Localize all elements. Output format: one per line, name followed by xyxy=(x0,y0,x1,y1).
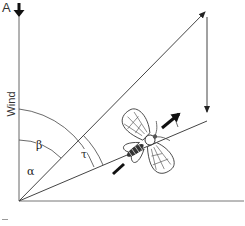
ground-vector xyxy=(19,12,205,201)
moth-heading-arrow-icon xyxy=(162,114,179,128)
alpha-label: α xyxy=(27,166,34,177)
wind-direction-arrow-icon xyxy=(14,3,25,17)
vector-diagram: A Wind xyxy=(0,0,245,226)
moth-tail-dash-icon xyxy=(113,164,124,174)
heading-vector xyxy=(19,121,207,201)
diagram-canvas xyxy=(0,0,245,226)
tau-label: τ xyxy=(81,149,87,160)
beta-label: β xyxy=(36,140,42,151)
footer-mark xyxy=(2,219,8,220)
moth-icon xyxy=(106,101,184,186)
